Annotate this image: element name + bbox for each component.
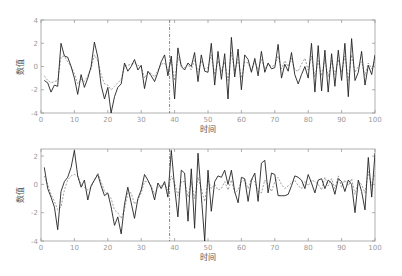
x-tick-label: 60	[237, 244, 246, 252]
y-tick-label: 0	[34, 63, 38, 71]
plot-frame	[41, 149, 375, 241]
x-tick-label: 0	[39, 244, 43, 252]
y-axis-label: 数值	[15, 187, 25, 203]
x-tick-label: 10	[70, 244, 79, 252]
series-actual	[44, 37, 375, 113]
y-tick-label: 2	[34, 40, 38, 48]
x-axis-label: 时间	[200, 252, 216, 262]
series-actual	[44, 150, 375, 241]
y-tick-label: 2	[34, 153, 38, 161]
x-tick-label: 70	[270, 116, 279, 124]
x-tick-label: 100	[368, 116, 381, 124]
x-tick-label: 50	[204, 244, 213, 252]
x-tick-label: 0	[39, 116, 43, 124]
y-tick-label: -4	[31, 238, 39, 246]
y-tick-label: 4	[34, 17, 39, 25]
x-tick-label: 40	[170, 244, 179, 252]
top-plot: 0102030405060708090100-4-2024时间数值	[15, 17, 382, 135]
x-tick-label: 90	[337, 244, 346, 252]
figure: 0102030405060708090100-4-2024时间数值 010203…	[0, 0, 402, 276]
x-tick-label: 100	[368, 244, 381, 252]
y-tick-label: -4	[31, 110, 39, 118]
x-tick-label: 20	[103, 244, 112, 252]
x-tick-label: 70	[270, 244, 279, 252]
x-tick-label: 50	[204, 116, 213, 124]
x-axis-label: 时间	[200, 124, 216, 134]
x-tick-label: 60	[237, 116, 246, 124]
x-tick-label: 40	[170, 116, 179, 124]
y-tick-label: 0	[34, 181, 38, 189]
x-tick-label: 10	[70, 116, 79, 124]
x-tick-label: 80	[304, 116, 313, 124]
bottom-plot: 0102030405060708090100-4-202时间数值	[15, 149, 382, 262]
y-axis-label: 数值	[15, 59, 25, 75]
x-tick-label: 90	[337, 116, 346, 124]
x-tick-label: 30	[137, 244, 146, 252]
x-tick-label: 80	[304, 244, 313, 252]
y-tick-label: -2	[31, 86, 38, 94]
y-tick-label: -2	[31, 209, 38, 217]
x-tick-label: 20	[103, 116, 112, 124]
x-tick-label: 30	[137, 116, 146, 124]
